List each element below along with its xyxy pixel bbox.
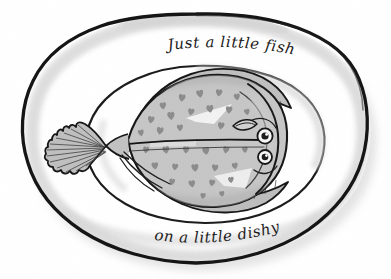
illustration-canvas: Just a little fishy on a little dishy [0, 0, 391, 279]
paper-grain-overlay [0, 0, 391, 279]
fish-on-dish-illustration: Just a little fishy on a little dishy [0, 0, 391, 279]
